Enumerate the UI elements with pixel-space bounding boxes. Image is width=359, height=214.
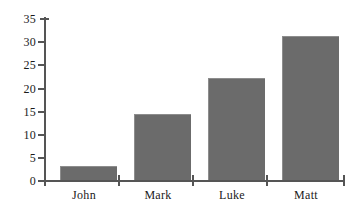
y-axis-label-10: 10	[4, 129, 36, 141]
x-tick-end	[343, 175, 345, 186]
bar-matt	[282, 36, 339, 181]
bar-john	[60, 166, 117, 181]
y-axis-label-15: 15	[4, 106, 36, 118]
plot-area	[44, 19, 344, 181]
x-axis-label-mark: Mark	[125, 188, 191, 202]
bar-mark	[134, 114, 191, 181]
y-axis-label-5: 5	[4, 152, 36, 164]
x-tick-luke-matt	[266, 175, 268, 186]
x-tick-start	[44, 175, 46, 186]
y-axis-label-35: 35	[4, 13, 36, 25]
y-axis-label-0: 0	[4, 175, 36, 187]
y-axis-label-30: 30	[4, 36, 36, 48]
x-axis-label-john: John	[51, 188, 117, 202]
x-axis-label-matt: Matt	[273, 188, 339, 202]
y-axis-label-25: 25	[4, 59, 36, 71]
bar-chart-figure: 35 30 25 20 15 10 5 0 John Mark Luke Mat…	[0, 0, 359, 214]
category-axis-line	[44, 180, 345, 182]
x-tick-mark-luke	[192, 175, 194, 186]
value-axis-labels: 35 30 25 20 15 10 5 0	[0, 0, 36, 214]
y-axis-label-20: 20	[4, 83, 36, 95]
x-axis-label-luke: Luke	[199, 188, 265, 202]
x-tick-john-mark	[118, 175, 120, 186]
bar-luke	[208, 78, 265, 181]
